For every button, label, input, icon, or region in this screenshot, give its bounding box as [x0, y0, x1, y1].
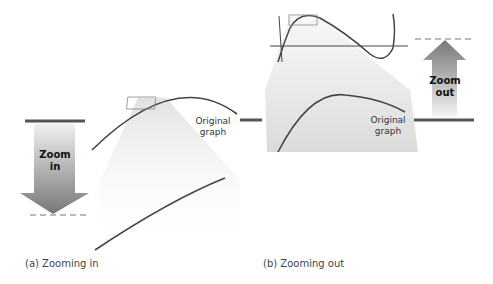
zoom-in-label-line1: Zoom: [30, 149, 80, 161]
original-label-line1: Original: [183, 116, 243, 127]
zoom-in-label-line2: in: [30, 161, 80, 173]
original-label-b-line1: Original: [358, 115, 418, 126]
zoom-diagram: Zoom in Original graph (a) Zooming in Zo…: [0, 0, 493, 284]
caption-b: (b) Zooming out: [263, 258, 344, 269]
zoom-out-label: Zoom out: [420, 75, 470, 99]
zoom-out-label-line2: out: [420, 87, 470, 99]
original-graph-label-b: Original graph: [358, 115, 418, 137]
zoom-out-label-line1: Zoom: [420, 75, 470, 87]
original-label-line2: graph: [183, 127, 243, 138]
caption-a: (a) Zooming in: [25, 258, 99, 269]
zoom-in-label: Zoom in: [30, 149, 80, 173]
diagram-graphics: [0, 0, 493, 284]
original-label-b-line2: graph: [358, 126, 418, 137]
original-graph-label-a: Original graph: [183, 116, 243, 138]
